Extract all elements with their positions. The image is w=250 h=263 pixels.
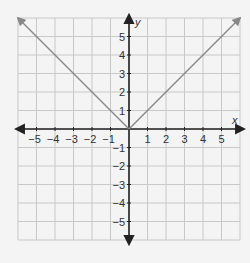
x-tick-label: 2 — [163, 133, 169, 145]
y-tick-label: −5 — [112, 216, 125, 228]
graph-canvas: −5−4−3−2−112345−5−4−3−2−112345 x y — [0, 0, 250, 263]
x-tick-label: 4 — [200, 133, 206, 145]
x-tick-label: 5 — [218, 133, 224, 145]
y-tick-label: 4 — [119, 49, 125, 61]
y-tick-label: 2 — [119, 86, 125, 98]
y-tick-label: 3 — [119, 68, 125, 80]
x-tick-label: −5 — [28, 133, 41, 145]
y-tick-label: −2 — [112, 160, 125, 172]
y-tick-label: −1 — [112, 142, 125, 154]
x-axis-label: x — [231, 114, 238, 126]
absolute-value-graph: −5−4−3−2−112345−5−4−3−2−112345 x y — [0, 0, 250, 263]
x-tick-label: −3 — [65, 133, 78, 145]
x-tick-label: 1 — [144, 133, 150, 145]
x-tick-label: −4 — [47, 133, 60, 145]
y-tick-label: 1 — [119, 105, 125, 117]
y-tick-label: −4 — [112, 197, 125, 209]
y-tick-label: −3 — [112, 179, 125, 191]
y-tick-label: 5 — [119, 31, 125, 43]
x-tick-label: 3 — [181, 133, 187, 145]
x-tick-label: −2 — [84, 133, 97, 145]
